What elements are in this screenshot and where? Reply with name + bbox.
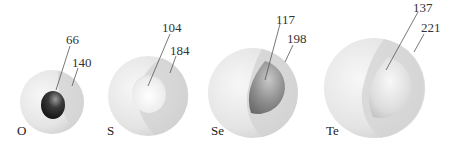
ionic-radius-O: 140 [72,55,92,70]
ionic-radius-Se: 198 [287,31,307,46]
atom-sphere-S [132,75,166,113]
element-O: 66 140 O [17,32,92,138]
ionic-radius-S: 184 [170,43,190,58]
ionic-radius-Te: 221 [421,20,441,35]
leader-ionic-Te [414,34,424,52]
symbol-Se: Se [211,123,224,138]
element-S: 104 184 S [107,20,190,138]
symbol-O: O [17,123,26,138]
symbol-Te: Te [326,123,339,138]
atomic-radius-Se: 117 [276,12,296,27]
atomic-radius-O: 66 [66,32,80,47]
symbol-S: S [107,123,114,138]
atom-sphere-O [41,91,65,119]
radii-diagram: 66 140 O 104 184 S 117 198 Se 137 221 Te [0,0,449,152]
leader-ionic-Se [285,45,293,62]
element-Se: 117 198 Se [208,12,307,138]
atomic-radius-S: 104 [162,20,182,35]
element-Te: 137 221 Te [324,0,441,138]
atomic-radius-Te: 137 [413,0,433,15]
